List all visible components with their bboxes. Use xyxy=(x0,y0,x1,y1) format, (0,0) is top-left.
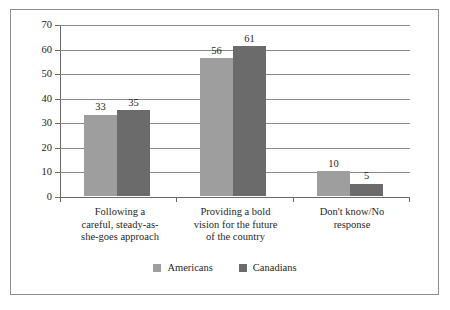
legend-item-americans[interactable]: Americans xyxy=(153,263,212,274)
bar-group-2: 10 5 xyxy=(293,24,409,196)
bar-value-americans-1: 56 xyxy=(211,46,222,57)
y-tick-label-40: 40 xyxy=(42,93,53,104)
category-label-0-line-2: she-goes approach xyxy=(62,231,178,244)
x-tick-mark-1 xyxy=(176,197,177,202)
bar-value-canadians-2: 5 xyxy=(364,171,369,182)
category-label-0-line-1: careful, steady-as- xyxy=(62,219,178,232)
x-tick-mark-0 xyxy=(60,197,61,202)
chart-figure: 70 60 50 40 30 20 10 0 xyxy=(0,0,450,310)
y-tick-label-10: 10 xyxy=(42,167,53,178)
chart-legend: Americans Canadians xyxy=(0,263,450,274)
x-tick-mark-3 xyxy=(409,197,410,202)
category-label-1-line-1: vision for the future xyxy=(177,219,294,232)
legend-swatch-icon-canadians xyxy=(239,264,247,272)
bar-value-americans-2: 10 xyxy=(328,159,339,170)
category-label-0-line-0: Following a xyxy=(62,206,178,219)
bar-group-1: 56 61 xyxy=(176,24,293,196)
legend-item-canadians[interactable]: Canadians xyxy=(239,263,297,274)
bar-americans-2[interactable]: 10 xyxy=(317,171,350,196)
legend-label-canadians: Canadians xyxy=(253,263,297,274)
category-label-1-line-0: Providing a bold xyxy=(177,206,294,219)
bar-americans-1[interactable]: 56 xyxy=(200,58,233,196)
gridline-0 xyxy=(60,197,410,198)
bar-group-0: 33 35 xyxy=(60,24,176,196)
category-label-2-line-1: response xyxy=(294,219,410,232)
category-label-2: Don't know/No response xyxy=(294,206,410,231)
y-tick-label-0: 0 xyxy=(47,192,52,203)
bar-value-canadians-0: 35 xyxy=(128,98,139,109)
bar-americans-0[interactable]: 33 xyxy=(84,115,117,196)
category-label-0: Following a careful, steady-as- she-goes… xyxy=(62,206,178,244)
category-label-1: Providing a bold vision for the future o… xyxy=(177,206,294,244)
category-label-1-line-2: of the country xyxy=(177,231,294,244)
y-tick-label-30: 30 xyxy=(42,118,53,129)
legend-label-americans: Americans xyxy=(167,263,212,274)
bar-canadians-2[interactable]: 5 xyxy=(350,184,383,196)
legend-swatch-icon-americans xyxy=(153,264,161,272)
plot-area: 70 60 50 40 30 20 10 0 xyxy=(60,25,410,197)
bar-canadians-1[interactable]: 61 xyxy=(233,46,266,196)
bar-canadians-0[interactable]: 35 xyxy=(117,110,150,196)
bar-value-americans-0: 33 xyxy=(95,102,106,113)
y-tick-label-20: 20 xyxy=(42,143,53,154)
x-tick-mark-2 xyxy=(293,197,294,202)
y-tick-label-60: 60 xyxy=(42,44,53,55)
category-label-2-line-0: Don't know/No xyxy=(294,206,410,219)
y-tick-label-70: 70 xyxy=(42,20,53,31)
bar-value-canadians-1: 61 xyxy=(244,34,255,45)
y-tick-label-50: 50 xyxy=(42,69,53,80)
